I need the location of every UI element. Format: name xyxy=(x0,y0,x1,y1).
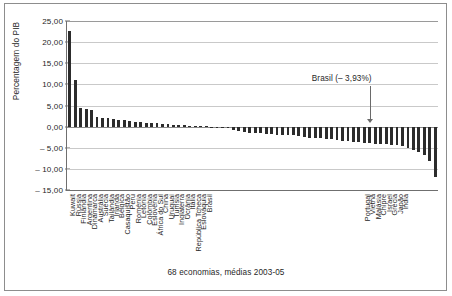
bar xyxy=(385,127,388,145)
bar xyxy=(90,110,93,127)
bar xyxy=(336,127,339,140)
bar xyxy=(68,31,71,126)
bar xyxy=(150,123,153,127)
bar xyxy=(128,121,131,126)
bar xyxy=(412,127,415,151)
bar xyxy=(265,127,268,134)
bar xyxy=(347,127,350,142)
bar xyxy=(352,127,355,142)
bar xyxy=(227,127,230,128)
bar xyxy=(407,127,410,148)
bar xyxy=(374,127,377,144)
bar xyxy=(276,127,279,135)
bar xyxy=(401,127,404,146)
bar xyxy=(297,127,300,137)
bar xyxy=(396,127,399,146)
bar xyxy=(390,127,393,145)
bar xyxy=(134,122,137,127)
bar xyxy=(379,127,382,144)
bar xyxy=(248,127,251,133)
bar xyxy=(270,127,273,135)
brasil-annotation-label: Brasil (– 3,93%) xyxy=(312,74,372,83)
bar xyxy=(319,127,322,139)
plot-area xyxy=(67,21,438,190)
bar xyxy=(161,124,164,127)
bar xyxy=(281,127,284,135)
bar xyxy=(341,127,344,141)
bar xyxy=(210,127,213,128)
brasil-annotation-arrow-icon xyxy=(367,119,373,123)
bar xyxy=(107,118,110,126)
figure-caption: 68 economias, médias 2003-05 xyxy=(0,268,452,277)
y-axis-tick-label: – 10,00 xyxy=(7,164,63,173)
bar xyxy=(357,127,360,143)
bar xyxy=(139,122,142,126)
bar xyxy=(183,125,186,126)
bar xyxy=(368,127,371,144)
x-axis-label-wrapper: Brasil xyxy=(209,176,218,194)
y-axis-tick-label: 10,00 xyxy=(7,80,63,89)
bar xyxy=(434,127,437,177)
y-axis-ticks: 25,0020,0015,0010,005,000,00– 5,00– 10,0… xyxy=(3,0,63,296)
bar xyxy=(314,127,317,138)
y-axis-tick-label: 20,00 xyxy=(7,38,63,47)
bar xyxy=(96,117,99,127)
bar xyxy=(199,126,202,127)
x-axis-category-labels: KuwaitRússiaFinlândiaArgentinaDinamarcaA… xyxy=(67,193,438,265)
x-axis-tick-label: Brasil xyxy=(204,194,213,212)
y-axis-tick-label: 0,00 xyxy=(7,122,63,131)
figure-container: Percentagem do PIB 25,0020,0015,0010,005… xyxy=(0,0,452,296)
bar xyxy=(221,127,224,128)
bar xyxy=(117,120,120,127)
bar xyxy=(243,127,246,132)
x-axis-tick-label: Índia xyxy=(401,194,410,210)
bar xyxy=(363,127,366,143)
bar xyxy=(254,127,257,133)
bar xyxy=(112,119,115,127)
bar xyxy=(303,127,306,138)
bar xyxy=(325,127,328,139)
y-axis-tick-label: 5,00 xyxy=(7,101,63,110)
bar xyxy=(292,127,295,136)
y-axis-tick-label: – 15,00 xyxy=(7,186,63,195)
bar xyxy=(417,127,420,153)
bar xyxy=(259,127,262,134)
bar xyxy=(428,127,431,162)
y-axis-tick-label: 25,00 xyxy=(7,17,63,26)
bar xyxy=(145,123,148,127)
bar xyxy=(74,80,77,126)
bar xyxy=(85,109,88,126)
bar xyxy=(308,127,311,138)
bar xyxy=(101,118,104,127)
bar xyxy=(205,126,208,127)
bar xyxy=(194,126,197,127)
y-axis-tick-label: 15,00 xyxy=(7,59,63,68)
bar xyxy=(232,127,235,131)
bar xyxy=(423,127,426,155)
bar xyxy=(79,108,82,127)
bar xyxy=(188,126,191,127)
y-axis-tick-label: – 5,00 xyxy=(7,143,63,152)
bar xyxy=(330,127,333,140)
bar xyxy=(156,123,159,126)
bar xyxy=(123,120,126,126)
bar xyxy=(287,127,290,135)
bar xyxy=(216,127,219,128)
bar xyxy=(237,127,240,132)
bar xyxy=(172,125,175,127)
bar xyxy=(177,125,180,126)
brasil-annotation-leader-line xyxy=(370,86,371,119)
bar xyxy=(167,124,170,126)
bar-series xyxy=(67,21,438,190)
x-axis-label-wrapper: Índia xyxy=(405,178,414,194)
